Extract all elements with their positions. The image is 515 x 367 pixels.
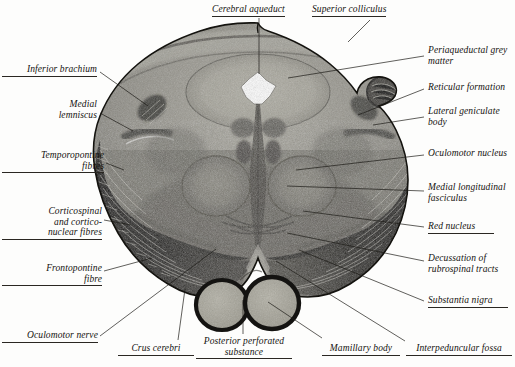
leader-crus-cerebri [178, 289, 185, 340]
label-corticospinal-and-corticonuclear-fibres: Corticospinal and cortico- nuclear fibre… [2, 206, 102, 240]
leader-decussation [287, 233, 424, 261]
label-mamillary-body: Mamillary body [322, 343, 400, 356]
label-decussation-of-rubrospinal-tracts: Decussation of rubrospinal tracts [428, 253, 514, 274]
label-inferior-brachium: Inferior brachium [2, 64, 97, 77]
label-medial-lemniscus: Medial lemniscus [2, 99, 97, 120]
leader-substantia-nigra [299, 250, 424, 301]
label-superior-colliculus: Superior colliculus [312, 4, 386, 17]
label-red-nucleus: Red nucleus [428, 221, 494, 234]
leader-medial-lemniscus [100, 113, 133, 131]
label-oculomotor-nucleus: Oculomotor nucleus [428, 148, 515, 159]
label-posterior-perforated-substance: Posterior perforated substance [196, 336, 292, 359]
label-interpeduncular-fossa: Interpeduncular fossa [406, 343, 512, 356]
leader-superior-colliculus [348, 20, 370, 42]
leader-interpeduncular-fossa [276, 261, 405, 341]
leader-mamillary-body [268, 302, 322, 338]
label-oculomotor-nerve: Oculomotor nerve [2, 330, 98, 343]
leader-temporopontine-fibres [106, 163, 124, 170]
label-reticular-formation: Reticular formation [428, 82, 515, 93]
label-periaqueductal-grey-matter: Periaqueductal grey matter [428, 45, 514, 66]
leader-frontopontine-fibre [104, 258, 152, 271]
leader-corticospinal [104, 220, 131, 225]
leader-mlf [287, 186, 424, 191]
label-temporopontine-fibres: Temporopontine fibres [2, 150, 104, 173]
leader-reticular-formation [358, 89, 424, 115]
label-medial-longitudinal-fasciculus: Medial longitudinal fasciculus [428, 182, 515, 203]
label-substantia-nigra: Substantia nigra [428, 295, 508, 308]
anatomical-figure: Cerebral aqueduct Superior colliculus In… [0, 0, 515, 367]
leader-lateral-geniculate [373, 117, 424, 125]
label-frontopontine-fibre: Frontopontine fibre [2, 263, 102, 286]
label-crus-cerebri: Crus cerebri [118, 343, 194, 356]
leader-oculomotor-nerve [100, 249, 216, 336]
leader-red-nucleus [303, 211, 424, 227]
leader-inferior-brachium [100, 72, 148, 106]
label-lateral-geniculate-body: Lateral geniculate body [428, 106, 512, 127]
leader-periaqueductal [288, 56, 424, 78]
label-cerebral-aqueduct: Cerebral aqueduct [212, 4, 285, 17]
leader-oculomotor-nucleus [296, 155, 424, 170]
